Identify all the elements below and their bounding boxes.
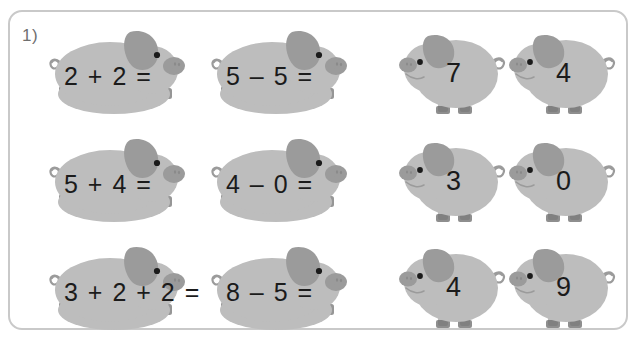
- equation-pig-cell[interactable]: 2 + 2 =: [44, 22, 192, 122]
- standing-pig-icon: [508, 240, 620, 336]
- answer-pig-cell[interactable]: 3: [398, 134, 510, 230]
- worksheet-exercise: 1) 2 + 2 =: [0, 0, 641, 342]
- answer-pig-cell[interactable]: 0: [508, 134, 620, 230]
- equation-pig-cell[interactable]: 5 + 4 =: [44, 130, 192, 230]
- lying-pig-icon: [44, 238, 192, 338]
- lying-pig-icon: [206, 238, 354, 338]
- standing-pig-icon: [508, 134, 620, 230]
- answer-pig-cell[interactable]: 7: [398, 26, 510, 122]
- lying-pig-icon: [44, 130, 192, 230]
- equation-pig-cell[interactable]: 5 – 5 =: [206, 22, 354, 122]
- lying-pig-icon: [206, 130, 354, 230]
- standing-pig-icon: [398, 240, 510, 336]
- lying-pig-icon: [44, 22, 192, 122]
- exercise-number-label: 1): [22, 26, 38, 46]
- equation-pig-cell[interactable]: 3 + 2 + 2 =: [44, 238, 192, 338]
- answer-pig-cell[interactable]: 4: [508, 26, 620, 122]
- answer-pig-cell[interactable]: 9: [508, 240, 620, 336]
- standing-pig-icon: [508, 26, 620, 122]
- lying-pig-icon: [206, 22, 354, 122]
- equation-pig-cell[interactable]: 4 – 0 =: [206, 130, 354, 230]
- standing-pig-icon: [398, 134, 510, 230]
- answer-pig-cell[interactable]: 4: [398, 240, 510, 336]
- standing-pig-icon: [398, 26, 510, 122]
- equation-pig-cell[interactable]: 8 – 5 =: [206, 238, 354, 338]
